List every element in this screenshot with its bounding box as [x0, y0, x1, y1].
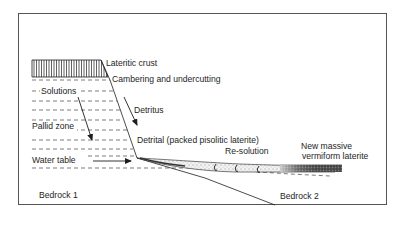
laterite-formation-diagram: Lateritic crust Cambering and undercutti…	[0, 0, 402, 232]
label-detrital: Detrital (packed pisolitic laterite)	[137, 135, 259, 145]
label-water-table: Water table	[32, 155, 76, 165]
label-cambering: Cambering and undercutting	[112, 74, 221, 84]
label-new-massive: New massive	[301, 141, 352, 151]
diagram-frame	[19, 14, 387, 205]
label-pallid-zone: Pallid zone	[32, 121, 74, 131]
label-bedrock-1: Bedrock 1	[39, 190, 78, 200]
label-lateritic-crust: Lateritic crust	[106, 58, 158, 68]
solutions-arrow	[78, 97, 92, 140]
label-detritus: Detritus	[134, 105, 164, 115]
label-solutions: Solutions	[41, 86, 76, 96]
lateritic-crust-block	[32, 60, 108, 77]
label-re-solution: Re-solution	[225, 146, 269, 156]
label-bedrock-2: Bedrock 2	[280, 191, 319, 201]
label-vermiform-laterite: vermiform laterite	[302, 151, 369, 161]
